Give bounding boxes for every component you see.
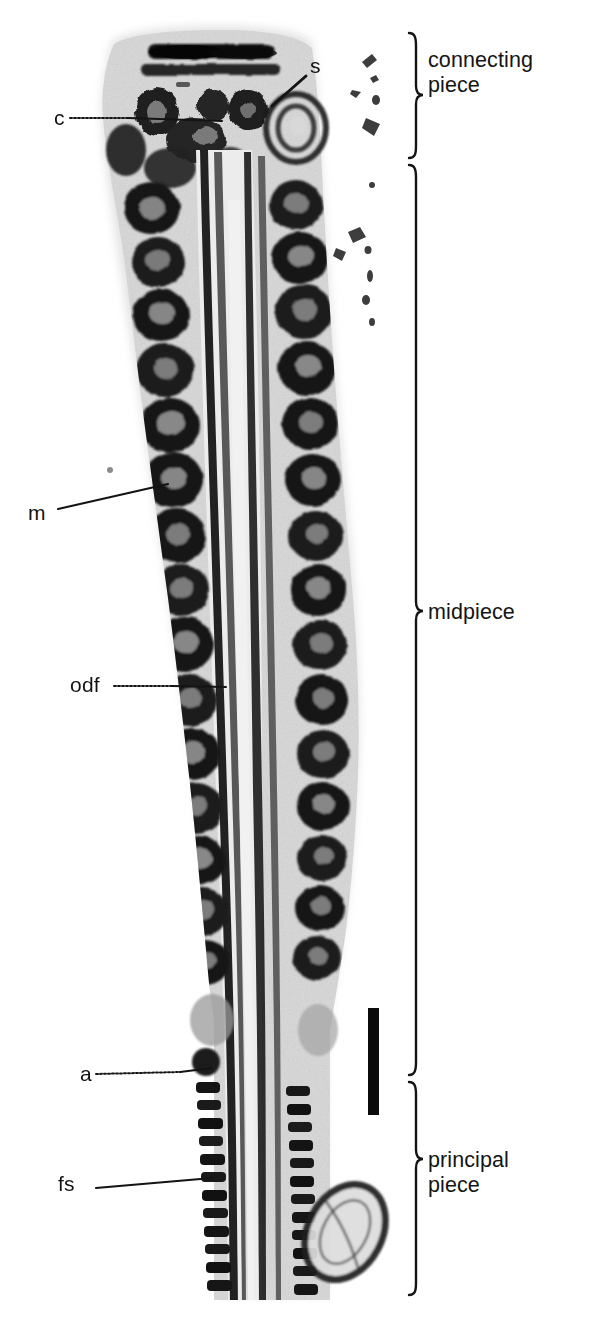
label-odf: odf	[70, 674, 100, 695]
micrograph-canvas	[0, 0, 590, 1342]
label-m: m	[28, 502, 46, 523]
label-fs: fs	[58, 1173, 75, 1194]
label-s: s	[310, 55, 321, 76]
region-label-connecting-piece: connecting piece	[428, 48, 533, 99]
label-a: a	[80, 1063, 92, 1084]
micrograph-figure: c s m odf a fs connecting piece midpiece…	[0, 0, 590, 1342]
region-label-midpiece: midpiece	[428, 600, 515, 625]
label-c: c	[54, 107, 65, 128]
scale-bar	[368, 1008, 379, 1115]
region-label-principal-piece: principal piece	[428, 1148, 509, 1199]
